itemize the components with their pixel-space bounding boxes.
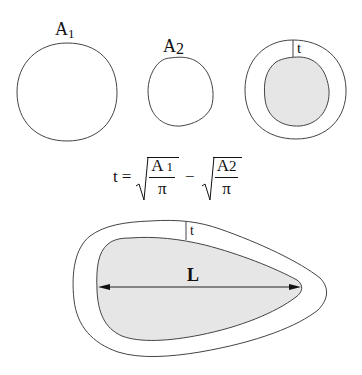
label-a2: A2 <box>163 37 184 55</box>
label-a1-sub: 1 <box>68 26 75 41</box>
label-a1-main: A <box>55 19 68 39</box>
label-egg-t: t <box>190 224 194 238</box>
ring-inner <box>264 57 329 126</box>
label-ring-t: t <box>297 41 301 56</box>
frac1-num: A <box>151 156 163 175</box>
radical-icon <box>135 156 149 202</box>
label-length: L <box>187 266 199 284</box>
formula-lhs: t <box>113 167 118 187</box>
thickness-formula: t = A1 π − A2 π <box>113 152 240 202</box>
frac2-num-sub: 2 <box>229 158 237 174</box>
label-a1: A1 <box>55 20 75 38</box>
formula-sqrt-term2: A2 π <box>201 156 241 199</box>
formula-frac2: A2 π <box>215 156 239 199</box>
formula-minus: − <box>185 167 195 187</box>
formula-sqrt-term1: A1 π <box>135 156 177 199</box>
radical-icon <box>201 156 215 202</box>
frac2-den: π <box>222 179 231 199</box>
label-a2-sub: 2 <box>176 40 184 57</box>
circle-a2 <box>148 57 213 126</box>
formula-frac1: A1 π <box>149 156 175 199</box>
frac1-den: π <box>158 179 167 199</box>
frac1-num-sub: 1 <box>167 159 174 174</box>
circle-a1 <box>17 43 117 141</box>
formula-equals: = <box>122 167 132 187</box>
frac2-num: A <box>217 156 229 175</box>
label-a2-main: A <box>163 36 176 56</box>
egg-inner <box>97 237 302 340</box>
